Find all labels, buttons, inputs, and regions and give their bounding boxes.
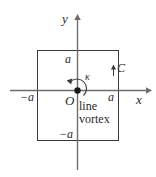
filled-dot-icon xyxy=(74,87,80,93)
y-axis-arrowhead-icon xyxy=(74,14,81,20)
origin-label: O xyxy=(65,94,74,107)
contour-label: C xyxy=(117,62,125,74)
up-arrow-icon xyxy=(111,64,116,69)
circulation-arrowhead-icon xyxy=(67,78,73,84)
vortex-caption-line-1: line xyxy=(79,100,97,112)
tick-label-x-positive: a xyxy=(108,91,114,103)
tick-label-y-positive: a xyxy=(65,53,71,65)
figure-vector-graphics xyxy=(0,0,156,177)
x-axis-label: x xyxy=(136,93,142,106)
figure-canvas: y x O a −a −a a κ C line vortex xyxy=(0,0,156,177)
vortex-strength-label: κ xyxy=(85,72,90,82)
tick-label-y-negative: −a xyxy=(59,128,73,140)
y-axis-label: y xyxy=(62,12,68,25)
vortex-caption-line-2: vortex xyxy=(79,113,110,125)
x-axis-arrowhead-icon xyxy=(146,87,152,94)
tick-label-x-negative: −a xyxy=(20,91,34,103)
